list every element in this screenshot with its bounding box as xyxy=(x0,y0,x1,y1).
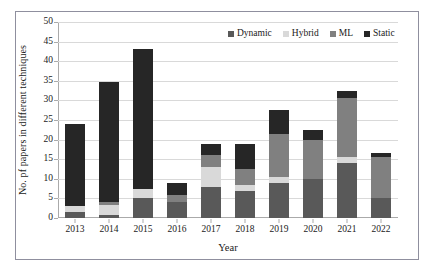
x-axis-title: Year xyxy=(218,242,237,253)
bar-segment-ml[interactable] xyxy=(303,140,323,179)
x-tick-label: 2016 xyxy=(168,225,187,235)
y-tick-label: 45 xyxy=(44,37,54,47)
bar-group[interactable]: 2014 xyxy=(92,22,126,218)
x-tick-label: 2020 xyxy=(304,225,323,235)
y-tick-label: 30 xyxy=(44,96,54,106)
bar-group[interactable]: 2016 xyxy=(160,22,194,218)
y-tick-label: 10 xyxy=(44,174,54,184)
bar-segment-ml[interactable] xyxy=(371,157,391,198)
x-tick-label: 2022 xyxy=(372,225,391,235)
x-tick-label: 2017 xyxy=(202,225,221,235)
x-tick-mark xyxy=(347,219,348,223)
x-tick-label: 2021 xyxy=(338,225,357,235)
bar-segment-hybrid[interactable] xyxy=(99,205,119,215)
bar-segment-static[interactable] xyxy=(201,144,221,156)
x-tick-label: 2015 xyxy=(134,225,153,235)
bar-segment-static[interactable] xyxy=(269,110,289,134)
bar-segment-dynamic[interactable] xyxy=(133,198,153,218)
y-tick-mark xyxy=(54,218,58,219)
bar-stack[interactable] xyxy=(65,124,85,218)
bar-stack[interactable] xyxy=(371,153,391,218)
x-tick-mark xyxy=(381,219,382,223)
x-tick-mark xyxy=(313,219,314,223)
bar-group[interactable]: 2017 xyxy=(194,22,228,218)
y-tick-label: 20 xyxy=(44,135,54,145)
bar-segment-hybrid[interactable] xyxy=(133,189,153,199)
bar-segment-dynamic[interactable] xyxy=(337,163,357,218)
bar-stack[interactable] xyxy=(269,110,289,218)
x-tick-label: 2019 xyxy=(270,225,289,235)
bar-segment-ml[interactable] xyxy=(269,134,289,177)
x-tick-label: 2018 xyxy=(236,225,255,235)
bar-segment-static[interactable] xyxy=(303,130,323,140)
bar-group[interactable]: 2018 xyxy=(228,22,262,218)
y-tick-label: 50 xyxy=(44,17,54,27)
bar-segment-dynamic[interactable] xyxy=(235,191,255,218)
bar-segment-dynamic[interactable] xyxy=(65,212,85,218)
bar-segment-dynamic[interactable] xyxy=(269,183,289,218)
bar-segment-hybrid[interactable] xyxy=(201,167,221,187)
bar-segment-dynamic[interactable] xyxy=(201,187,221,218)
x-tick-mark xyxy=(245,219,246,223)
y-tick-label: 0 xyxy=(48,213,53,223)
y-tick-label: 40 xyxy=(44,56,54,66)
y-axis-title: No. pf papers in different techniques xyxy=(17,45,28,195)
x-tick-label: 2014 xyxy=(100,225,119,235)
bar-group[interactable]: 2022 xyxy=(364,22,398,218)
bar-stack[interactable] xyxy=(303,130,323,218)
bar-segment-ml[interactable] xyxy=(337,98,357,157)
bar-group[interactable]: 2021 xyxy=(330,22,364,218)
bar-group[interactable]: 2013 xyxy=(58,22,92,218)
bar-group[interactable]: 2020 xyxy=(296,22,330,218)
bar-segment-ml[interactable] xyxy=(201,155,221,167)
bar-segment-dynamic[interactable] xyxy=(303,179,323,218)
bar-stack[interactable] xyxy=(167,183,187,218)
bar-stack[interactable] xyxy=(235,144,255,218)
bar-segment-static[interactable] xyxy=(235,144,255,169)
chart-figure: No. pf papers in different techniques Ye… xyxy=(0,0,434,272)
bar-segment-dynamic[interactable] xyxy=(167,202,187,218)
plot-area: 05101520253035404550 2013201420152016201… xyxy=(58,22,398,218)
bar-segment-dynamic[interactable] xyxy=(99,215,119,218)
bar-segment-static[interactable] xyxy=(65,124,85,206)
x-tick-mark xyxy=(177,219,178,223)
x-tick-mark xyxy=(109,219,110,223)
bar-stack[interactable] xyxy=(133,49,153,218)
y-tick-label: 5 xyxy=(48,194,53,204)
bar-segment-static[interactable] xyxy=(99,82,119,203)
y-tick-label: 15 xyxy=(44,154,54,164)
x-tick-mark xyxy=(211,219,212,223)
bar-segment-ml[interactable] xyxy=(235,169,255,185)
x-tick-mark xyxy=(279,219,280,223)
bar-series-group: 2013201420152016201720182019202020212022 xyxy=(58,22,398,218)
bar-segment-dynamic[interactable] xyxy=(371,198,391,218)
bar-stack[interactable] xyxy=(99,82,119,218)
bar-stack[interactable] xyxy=(337,91,357,218)
bar-segment-static[interactable] xyxy=(133,49,153,188)
bar-stack[interactable] xyxy=(201,144,221,218)
bar-group[interactable]: 2015 xyxy=(126,22,160,218)
y-tick-label: 25 xyxy=(44,115,54,125)
x-tick-mark xyxy=(143,219,144,223)
bar-segment-ml[interactable] xyxy=(167,195,187,203)
bar-segment-static[interactable] xyxy=(167,183,187,195)
y-tick-label: 35 xyxy=(44,76,54,86)
x-tick-mark xyxy=(75,219,76,223)
bar-segment-static[interactable] xyxy=(337,91,357,99)
bar-group[interactable]: 2019 xyxy=(262,22,296,218)
x-tick-label: 2013 xyxy=(66,225,85,235)
